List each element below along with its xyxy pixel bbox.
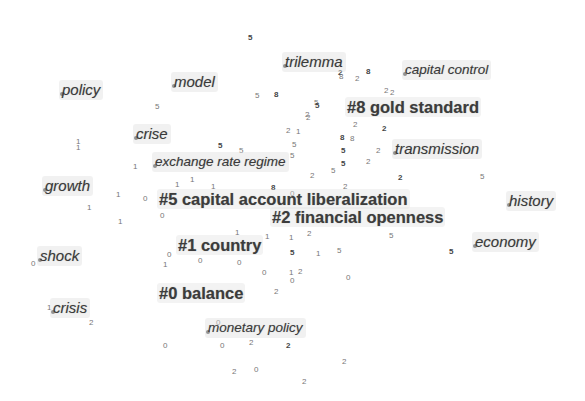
node-number: 2	[89, 318, 93, 327]
cluster-label[interactable]: #0 balance	[157, 283, 245, 303]
cluster-label[interactable]: #1 country	[176, 235, 263, 255]
node-number: 0	[290, 276, 294, 285]
node-number: 0	[31, 259, 35, 268]
node-number: 1	[296, 127, 300, 136]
node-number: 5	[449, 247, 453, 256]
cluster-network-canvas: 5558522828225222218855225522255551111118…	[0, 0, 585, 401]
node-number: 2	[302, 377, 306, 386]
keyword-label[interactable]: transmission	[392, 139, 482, 159]
node-number: 0	[163, 341, 167, 350]
node-number: 5	[480, 172, 484, 181]
node-number: 2	[286, 341, 290, 350]
node-number: 5	[315, 101, 319, 110]
node-number: 0	[198, 256, 202, 265]
node-number: 2	[232, 367, 236, 376]
node-number: 2	[366, 157, 370, 166]
node-number: 1	[289, 233, 293, 242]
node-number: 1	[190, 175, 194, 184]
cluster-label[interactable]: #2 financial openness	[270, 207, 445, 227]
node-number: 5	[331, 166, 335, 175]
node-number: 5	[341, 146, 345, 155]
node-number: 2	[382, 124, 386, 133]
keyword-label[interactable]: shock	[37, 246, 82, 266]
node-number: 1	[316, 249, 320, 258]
node-number: 0	[167, 250, 171, 259]
node-number: 8	[366, 67, 370, 76]
node-number: 5	[255, 91, 259, 100]
node-number: 1	[133, 162, 137, 171]
node-number: 2	[353, 120, 357, 129]
node-number: 8	[340, 133, 344, 142]
node-number: 8	[350, 134, 354, 143]
node-number: 5	[292, 140, 296, 149]
node-number: 2	[342, 357, 346, 366]
node-number: 2	[310, 171, 314, 180]
node-number: 2	[249, 338, 253, 347]
node-number: 1	[163, 260, 167, 269]
node-number: 5	[248, 33, 252, 42]
node-number: 2	[298, 267, 302, 276]
node-number: 0	[160, 211, 164, 220]
keyword-label[interactable]: economy	[472, 232, 539, 252]
node-number: 8	[339, 72, 343, 81]
node-number: 1	[175, 180, 179, 189]
node-number: 5	[337, 246, 341, 255]
node-number: 0	[262, 268, 266, 277]
node-number: 5	[155, 102, 159, 111]
node-number: 1	[87, 203, 91, 212]
node-number: 5	[341, 159, 345, 168]
node-number: 2	[306, 113, 310, 122]
node-number: 0	[220, 341, 224, 350]
cluster-label[interactable]: #8 gold standard	[345, 97, 481, 117]
node-number: 5	[218, 141, 222, 150]
node-number: 5	[389, 231, 393, 240]
keyword-label[interactable]: monetary policy	[205, 318, 306, 338]
node-number: 1	[76, 143, 80, 152]
node-number: 2	[307, 229, 311, 238]
node-number: 1	[116, 190, 120, 199]
node-number: 1	[118, 217, 122, 226]
node-number: 2	[376, 146, 380, 155]
keyword-label[interactable]: crise	[133, 124, 171, 144]
node-number: 8	[274, 90, 278, 99]
node-number: 2	[398, 173, 402, 182]
node-number: 0	[346, 273, 350, 282]
node-number: 2	[355, 74, 359, 83]
node-number: 0	[254, 365, 258, 374]
keyword-label[interactable]: model	[171, 72, 218, 92]
node-number: 1	[265, 232, 269, 241]
node-number: 2	[384, 86, 388, 95]
keyword-label[interactable]: policy	[59, 80, 103, 100]
keyword-label[interactable]: trilemma	[282, 52, 346, 72]
cluster-label[interactable]: #5 capital account liberalization	[157, 189, 410, 209]
node-number: 2	[286, 126, 290, 135]
node-number: 5	[290, 248, 294, 257]
node-number: 2	[390, 88, 394, 97]
keyword-label[interactable]: history	[506, 191, 556, 211]
keyword-label[interactable]: growth	[42, 176, 93, 196]
keyword-label[interactable]: capital control	[402, 60, 491, 80]
node-number: 0	[237, 258, 241, 267]
node-number: 0	[143, 194, 147, 203]
node-number: 2	[274, 287, 278, 296]
keyword-label[interactable]: crisis	[50, 298, 90, 318]
keyword-label[interactable]: exchange rate regime	[152, 152, 289, 172]
node-number: 5	[290, 151, 294, 160]
